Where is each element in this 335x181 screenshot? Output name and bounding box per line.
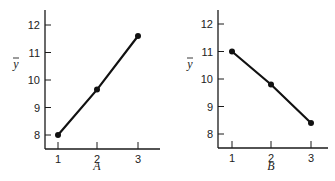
y-tick-label: 10 bbox=[28, 74, 40, 86]
data-point bbox=[268, 82, 274, 88]
y-tick-label: 9 bbox=[34, 102, 40, 114]
series-line bbox=[58, 36, 138, 135]
data-point bbox=[55, 132, 61, 138]
y-tick-label: 12 bbox=[28, 19, 40, 31]
interaction-plots: 89101112123Ay 89101112123By bbox=[0, 0, 335, 181]
y-tick-label: 8 bbox=[207, 128, 213, 140]
y-tick-label: 11 bbox=[29, 47, 40, 59]
data-point bbox=[135, 33, 141, 39]
y-tick-label: 8 bbox=[34, 129, 40, 141]
chart-panel-b: 89101112123By bbox=[186, 10, 328, 173]
y-tick-label: 9 bbox=[207, 101, 213, 113]
data-point bbox=[308, 120, 314, 126]
x-tick-label: 3 bbox=[308, 152, 314, 164]
y-axis-title: y bbox=[12, 57, 19, 71]
y-tick-label: 11 bbox=[202, 46, 213, 58]
y-tick-label: 12 bbox=[201, 18, 213, 30]
chart-panel-a: 89101112123Ay bbox=[12, 10, 160, 173]
x-tick-label: 1 bbox=[55, 153, 61, 165]
x-tick-label: 1 bbox=[229, 152, 235, 164]
y-axis-title: y bbox=[186, 57, 193, 71]
data-point bbox=[229, 49, 235, 55]
x-axis-title: A bbox=[92, 159, 101, 173]
x-tick-label: 3 bbox=[135, 153, 141, 165]
x-axis-title: B bbox=[267, 159, 275, 173]
y-tick-label: 10 bbox=[201, 73, 213, 85]
data-point bbox=[94, 87, 100, 93]
